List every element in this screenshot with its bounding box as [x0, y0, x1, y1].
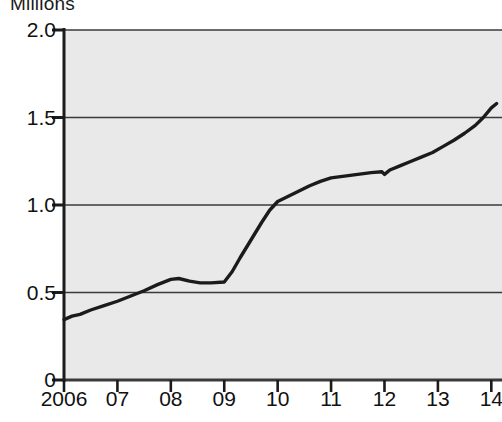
- x-tick-label: 10: [266, 388, 289, 410]
- y-tick-label: 0.5: [8, 282, 56, 303]
- y-tick-label: 2.0: [8, 19, 56, 40]
- x-tick-label: 07: [106, 388, 129, 410]
- y-axis-labels: 2.01.51.00.50: [0, 0, 56, 422]
- line-chart: Millions 2.01.51.00.50 20060708091011121…: [0, 0, 502, 422]
- x-tick-label: 09: [213, 388, 236, 410]
- x-tick-label: 08: [159, 388, 182, 410]
- x-tick-label: 11: [320, 388, 342, 410]
- x-tick-label: 13: [426, 388, 449, 410]
- y-tick-label: 1.0: [8, 194, 56, 215]
- x-axis-labels: 20060708091011121314: [0, 388, 502, 422]
- x-tick-label: 14: [480, 388, 502, 410]
- plot-area: [0, 0, 502, 422]
- x-tick-label: 12: [373, 388, 396, 410]
- x-tick-label: 2006: [41, 388, 88, 410]
- y-tick-label: 1.5: [8, 107, 56, 128]
